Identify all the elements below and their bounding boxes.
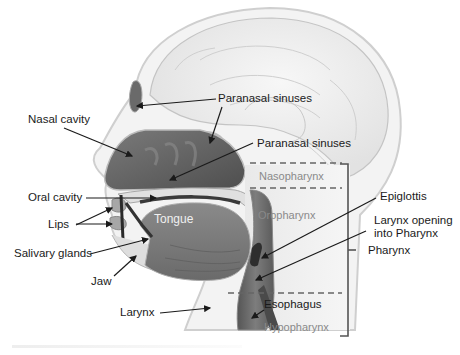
anatomy-diagram: Paranasal sinuses Paranasal sinuses Nasa… (0, 0, 460, 355)
label-paranasal-sinuses-lower: Paranasal sinuses (257, 137, 351, 150)
frontal-sinus (129, 81, 142, 112)
label-larynx-opening-line1: Larynx opening (374, 214, 453, 227)
leader-jaw (114, 256, 136, 276)
label-pharynx: Pharynx (368, 244, 410, 257)
label-nasal-cavity: Nasal cavity (28, 113, 90, 126)
label-epiglottis: Epiglottis (380, 190, 427, 203)
faded-caption (12, 345, 242, 348)
leader-lips-upper (76, 208, 112, 225)
label-paranasal-sinuses-upper: Paranasal sinuses (218, 92, 312, 105)
label-larynx-opening-line2: into Pharynx (374, 227, 438, 240)
region-hypopharynx: Hypopharynx (264, 321, 329, 333)
label-lips: Lips (48, 218, 69, 231)
head-cross-section-illustration (0, 0, 460, 355)
label-jaw: Jaw (91, 275, 111, 288)
label-tongue: Tongue (154, 213, 193, 226)
region-nasopharynx: Nasopharynx (259, 170, 324, 182)
region-oropharynx: Oropharynx (258, 209, 315, 221)
nasal-cavity-shape (105, 130, 245, 190)
label-esophagus: Esophagus (264, 298, 322, 311)
label-oral-cavity: Oral cavity (28, 191, 82, 204)
label-salivary-glands: Salivary glands (14, 247, 92, 260)
label-larynx: Larynx (120, 306, 155, 319)
